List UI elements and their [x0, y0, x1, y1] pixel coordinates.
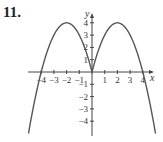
y-tick-label: −3: [78, 104, 88, 114]
x-axis-label: x: [149, 72, 155, 83]
x-tick-label: −3: [49, 75, 59, 85]
x-tick-label: −2: [62, 75, 72, 85]
y-tick-label: 3: [84, 30, 89, 40]
y-axis-arrow: [90, 13, 94, 18]
y-tick-label: −2: [78, 92, 88, 102]
function-graph: xy−4−3−2−11234−4−3−2−11234: [0, 0, 163, 142]
x-tick-label: 2: [115, 75, 120, 85]
y-tick-label: 4: [84, 18, 89, 28]
y-tick-label: −4: [78, 116, 88, 126]
y-tick-label: −1: [78, 79, 88, 89]
x-tick-label: 3: [128, 75, 133, 85]
x-tick-label: 1: [102, 75, 107, 85]
